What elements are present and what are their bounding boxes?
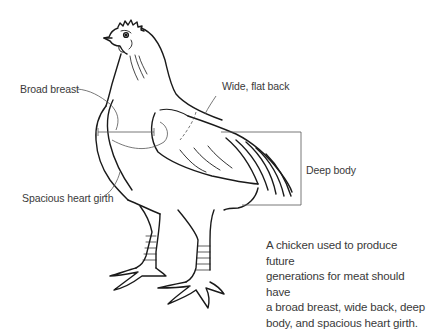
label-spacious-heart-girth: Spacious heart girth <box>22 192 113 204</box>
heart-girth-curve <box>112 122 167 149</box>
leader-wide-back <box>205 96 216 114</box>
comb <box>118 20 144 31</box>
caption-line: generations for meat should have <box>266 269 426 300</box>
caption-line: A chicken used to produce future <box>266 238 426 269</box>
leg-right <box>178 210 198 282</box>
head <box>104 28 127 54</box>
neck-front <box>106 54 121 106</box>
label-wide-flat-back: Wide, flat back <box>222 80 289 92</box>
label-deep-body: Deep body <box>306 164 356 176</box>
deep-body-box <box>221 132 301 205</box>
wing <box>152 113 258 184</box>
thigh-right <box>224 188 258 210</box>
foot-right <box>158 282 224 308</box>
caption-line: a broad breast, wide back, deep <box>266 300 426 316</box>
breast-measure <box>98 128 154 136</box>
caption: A chicken used to produce future generat… <box>266 238 426 331</box>
foot-left <box>110 268 166 290</box>
caption-line: body, and spacious heart girth. <box>266 316 426 331</box>
back <box>188 116 292 192</box>
label-broad-breast: Broad breast <box>20 83 79 95</box>
leg-left <box>136 206 152 268</box>
